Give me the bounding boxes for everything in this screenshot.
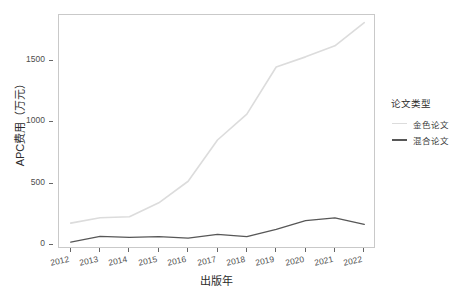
y-tick-mark: [49, 244, 53, 245]
x-tick-mark: [275, 248, 276, 252]
y-tick-mark: [49, 60, 53, 61]
x-tick-mark: [158, 248, 159, 252]
x-tick-mark: [217, 248, 218, 252]
x-tick-mark: [70, 248, 71, 252]
x-tick-label: 2018: [225, 254, 246, 268]
x-tick-label: 2017: [196, 254, 217, 268]
legend-item[interactable]: 混合论文: [391, 133, 465, 147]
x-tick-label: 2019: [255, 254, 276, 268]
x-tick-label: 2014: [108, 254, 129, 268]
legend-item-label: 混合论文: [413, 134, 449, 146]
x-axis-title: 出版年: [58, 272, 375, 288]
chart-lines: [59, 15, 375, 248]
y-axis: APC费用（万元） 050010001500: [0, 0, 58, 262]
x-tick-label: 2021: [313, 254, 334, 268]
x-tick-mark: [363, 248, 364, 252]
legend-title: 论文类型: [391, 96, 465, 110]
y-tick-label: 500: [31, 178, 45, 187]
x-tick-mark: [128, 248, 129, 252]
x-tick-mark: [187, 248, 188, 252]
x-axis: 2012201320142015201620172018201920202021…: [0, 248, 465, 288]
y-axis-title: APC费用（万元）: [11, 32, 27, 212]
series-line-1: [71, 23, 365, 224]
y-tick-label: 1000: [26, 116, 45, 125]
x-tick-label: 2015: [137, 254, 158, 268]
y-tick-label: 1500: [26, 55, 45, 64]
x-tick-mark: [305, 248, 306, 252]
chart-root: APC费用（万元） 050010001500 20122013201420152…: [0, 0, 465, 288]
y-tick-mark: [49, 121, 53, 122]
x-tick-mark: [334, 248, 335, 252]
x-tick-label: 2013: [78, 254, 99, 268]
x-tick-label: 2020: [284, 254, 305, 268]
y-tick-mark: [49, 183, 53, 184]
legend-item-label: 金色论文: [413, 118, 449, 130]
legend-item[interactable]: 金色论文: [391, 117, 465, 131]
plot-panel: [58, 14, 375, 248]
x-tick-mark: [246, 248, 247, 252]
legend-line-icon: [391, 134, 408, 146]
series-line-2: [71, 218, 365, 242]
legend-line-icon: [391, 118, 408, 130]
x-tick-label: 2012: [49, 254, 70, 268]
legend: 论文类型 金色论文混合论文: [391, 96, 465, 149]
x-tick-label: 2022: [343, 254, 364, 268]
x-tick-mark: [99, 248, 100, 252]
y-tick-label: 0: [40, 239, 45, 248]
legend-items: 金色论文混合论文: [391, 117, 465, 147]
x-tick-label: 2016: [167, 254, 188, 268]
